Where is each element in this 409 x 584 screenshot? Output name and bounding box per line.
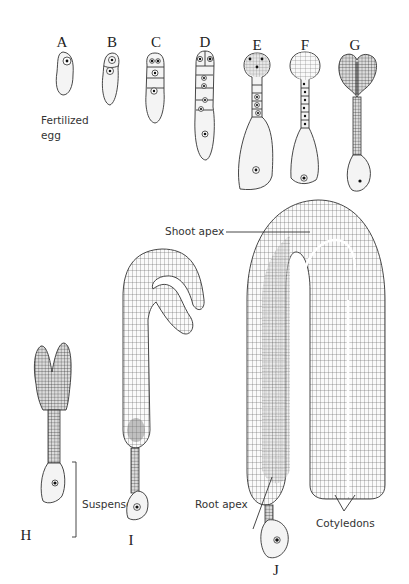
stage-i-bent-cotyledon-embryo — [123, 249, 204, 520]
stage-c-embryo — [146, 53, 164, 123]
stage-label-a: A — [57, 34, 68, 50]
embryo-development-diagram: A B C D E F G Fertilized egg — [0, 0, 409, 584]
stage-h-torpedo-embryo — [34, 343, 71, 503]
stage-j-mature-embryo — [247, 200, 385, 558]
stage-b-two-celled — [102, 53, 119, 105]
stage-e-globular-embryo — [239, 53, 273, 190]
stage-label-d: D — [200, 34, 211, 50]
fertilized-egg-label-line1: Fertilized — [41, 114, 89, 126]
stage-f-globular-embryo — [290, 52, 320, 184]
stage-g-heart-embryo — [339, 54, 377, 191]
stage-label-c: C — [151, 34, 161, 50]
stage-label-g: G — [350, 37, 361, 53]
stage-label-h: H — [21, 527, 32, 543]
stage-label-i: I — [129, 532, 134, 548]
stage-label-j: J — [273, 562, 279, 578]
stage-label-b: B — [107, 34, 117, 50]
cotyledons-label: Cotyledons — [316, 517, 375, 529]
stage-label-f: F — [301, 37, 309, 53]
stage-label-e: E — [252, 37, 261, 53]
fertilized-egg-label-line2: egg — [41, 129, 61, 141]
root-apex-label: Root apex — [195, 498, 248, 510]
suspensor-bracket — [72, 462, 76, 537]
stage-d-embryo — [195, 51, 214, 160]
shoot-apex-label: Shoot apex — [165, 225, 224, 237]
stage-a-fertilized-egg — [56, 52, 73, 95]
